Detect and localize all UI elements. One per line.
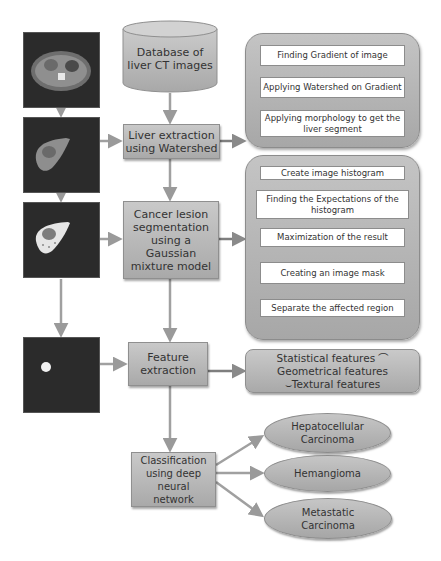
classification-label: Classification using deep neural network	[138, 454, 209, 506]
arrow-class-met	[216, 482, 261, 515]
liver-extraction-label: Liver extraction using Watershed	[124, 129, 219, 155]
liver-segment-icon	[24, 118, 99, 192]
lesion-segment-icon	[24, 203, 99, 277]
liver-extraction-node: Liver extraction using Watershed	[123, 124, 220, 159]
watershed-step-1: Finding Gradient of image	[260, 45, 405, 66]
classification-node: Classification using deep neural network	[131, 452, 216, 507]
database-label: Database of liver CT images	[126, 46, 214, 72]
gmm-step-4: Creating an image mask	[260, 262, 405, 284]
ct-lesion-segmented-image	[23, 202, 100, 278]
features-node: Statistical features ⌒ Geometrical featu…	[245, 349, 420, 393]
feature-extraction-label: Feature extraction	[140, 351, 196, 377]
ct-liver-extracted-image	[23, 117, 100, 193]
gmm-steps-panel: Create image histogram Finding the Expec…	[245, 155, 420, 340]
features-label: Statistical features ⌒ Geometrical featu…	[254, 352, 411, 391]
feature-extraction-node: Feature extraction	[128, 342, 208, 386]
watershed-step-2: Applying Watershed on Gradient	[260, 77, 405, 98]
gmm-step-2: Finding the Expectations of the histogra…	[256, 190, 409, 219]
lesion-mask-icon	[24, 338, 99, 412]
lesion-segmentation-label: Cancer lesion segmentation using a Gauss…	[130, 208, 212, 273]
lesion-segmentation-node: Cancer lesion segmentation using a Gauss…	[123, 201, 219, 279]
class-hepatocellular-carcinoma: Hepatocellular Carcinoma	[264, 413, 391, 453]
arrow-class-hcc	[216, 437, 261, 465]
class-metastatic-carcinoma: Metastatic Carcinoma	[264, 498, 392, 539]
gmm-step-3: Maximization of the result	[260, 228, 405, 247]
ct-scan-original-image	[23, 32, 100, 108]
watershed-step-3: Applying morphology to get the liver seg…	[260, 110, 405, 137]
database-node: Database of liver CT images	[122, 20, 218, 94]
class-hemangioma: Hemangioma	[264, 455, 391, 492]
watershed-steps-panel: Finding Gradient of image Applying Water…	[245, 33, 420, 148]
gmm-step-1: Create image histogram	[260, 166, 405, 180]
gmm-step-5: Separate the affected region	[260, 299, 405, 317]
abdomen-ct-icon	[24, 33, 99, 107]
ct-lesion-mask-image	[23, 337, 100, 413]
